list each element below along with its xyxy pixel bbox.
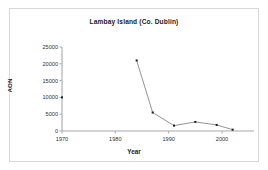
plot-area	[0, 0, 268, 170]
chart-figure: Lambay Island (Co. Dublin) AON Year 0500…	[0, 0, 268, 170]
data-point-marker	[232, 129, 234, 131]
x-tick-label: 1980	[100, 136, 130, 142]
y-tick-label: 20000	[30, 61, 58, 67]
axes-group	[62, 47, 254, 131]
data-point-marker	[136, 59, 138, 61]
x-tick-label: 1990	[154, 136, 184, 142]
data-point-marker	[173, 125, 175, 127]
tick-marks-group	[60, 47, 223, 134]
data-point-marker	[61, 96, 63, 98]
data-line-group	[137, 60, 233, 129]
data-line	[137, 60, 233, 129]
y-tick-label: 25000	[30, 44, 58, 50]
y-tick-label: 10000	[30, 94, 58, 100]
data-point-marker	[152, 112, 154, 114]
x-tick-label: 1970	[47, 136, 77, 142]
data-point-marker	[194, 121, 196, 123]
y-tick-label: 15000	[30, 78, 58, 84]
y-tick-label: 0	[30, 128, 58, 134]
y-tick-label: 5000	[30, 111, 58, 117]
data-point-marker	[216, 124, 218, 126]
x-tick-label: 2000	[207, 136, 237, 142]
